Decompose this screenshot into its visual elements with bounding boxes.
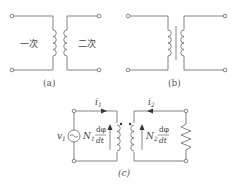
emf-secondary-N-label: N2 (145, 131, 158, 142)
terminal-icon (97, 14, 101, 18)
terminal-icon (184, 159, 188, 163)
arrowhead-icon (140, 124, 145, 130)
polarity-dot-icon (120, 123, 122, 125)
current-i2-label: i2 (148, 97, 155, 108)
terminal-icon (72, 159, 76, 163)
terminal-icon (10, 14, 14, 18)
polarity-dot-icon (129, 123, 131, 125)
terminal-icon (126, 14, 130, 18)
terminal-icon (10, 68, 14, 72)
emf-primary-N-label: N1 (82, 131, 95, 142)
emf-secondary-numerator: dφ (159, 125, 169, 134)
primary-label: 一次 (20, 38, 38, 49)
emf-primary-numerator: dφ (96, 125, 106, 134)
terminal-icon (72, 109, 76, 113)
secondary-coil-icon (181, 30, 184, 56)
terminal-icon (97, 68, 101, 72)
current-i1-label: i1 (95, 97, 102, 108)
primary-coil-icon (53, 30, 56, 56)
transformer-diagram: 一次 二次 (a) (b) (0, 0, 237, 190)
primary-coil-icon (117, 125, 120, 151)
terminal-icon (184, 109, 188, 113)
source-v1-label: v1 (57, 131, 66, 142)
terminal-icon (126, 68, 130, 72)
emf-primary-denominator: dt (96, 136, 105, 145)
terminal-icon (223, 68, 227, 72)
panel-b (126, 14, 227, 72)
primary-coil-icon (168, 30, 171, 56)
caption-a: (a) (43, 78, 55, 88)
caption-c: (c) (118, 168, 131, 178)
secondary-coil-icon (131, 125, 134, 151)
caption-b: (b) (168, 78, 181, 88)
arrowhead-icon (108, 124, 113, 130)
terminal-icon (223, 14, 227, 18)
emf-secondary-denominator: dt (159, 136, 168, 145)
secondary-label: 二次 (78, 38, 96, 49)
secondary-coil-icon (64, 30, 67, 56)
resistor-icon (181, 124, 191, 150)
current-arrow-primary-icon (101, 109, 107, 114)
current-arrow-secondary-icon (147, 109, 153, 114)
